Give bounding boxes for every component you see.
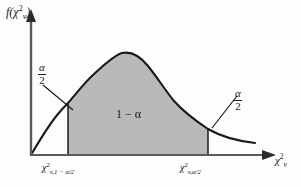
tick-right-superscript: 2: [184, 161, 187, 168]
right-tail-fraction: α 2: [234, 88, 242, 112]
y-axis-label-close: ): [26, 5, 30, 19]
left-tail-numerator: α: [38, 62, 46, 73]
x-tick-label-lower-critical: χ2v,1 − α/2: [42, 163, 74, 173]
right-tail-numerator: α: [234, 88, 242, 99]
tick-right-subscript: v,α/2: [188, 168, 201, 175]
x-axis-arrowhead: [262, 150, 276, 160]
tick-left-subscript: v,1 − α/2: [50, 168, 74, 175]
central-area-label: 1 − α: [116, 108, 141, 120]
x-axis-label-subscript: v: [284, 160, 287, 169]
distribution-plot: [0, 0, 301, 187]
left-tail-area-label: α 2: [38, 62, 46, 86]
right-tail-denominator: 2: [234, 101, 242, 112]
left-tail-fraction: α 2: [38, 62, 46, 86]
chi-square-figure: f(χ2v) α 2 α 2 1 − α χ2v,1 − α/2 χ2v,α/2…: [0, 0, 301, 187]
left-tail-denominator: 2: [38, 75, 46, 86]
right-tail-area-label: α 2: [234, 88, 242, 112]
x-tick-label-upper-critical: χ2v,α/2: [180, 163, 201, 173]
central-shaded-region: [68, 53, 208, 155]
left-tail-leader-line: [43, 85, 73, 110]
x-axis-label: χ2v: [275, 155, 287, 166]
tick-left-superscript: 2: [46, 161, 49, 168]
y-axis-label: f(χ2v): [6, 6, 30, 18]
